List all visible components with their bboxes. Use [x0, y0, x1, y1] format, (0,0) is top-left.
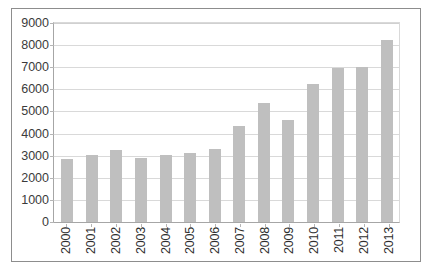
y-tick-mark-5000 [50, 111, 54, 112]
bar-slot [153, 23, 178, 222]
x-tick-label-2003: 2003 [134, 227, 147, 254]
bar-2003[interactable] [135, 158, 147, 222]
bar-2007[interactable] [233, 126, 245, 222]
y-tick-label-5000: 5000 [21, 105, 49, 118]
bar-slot [55, 23, 80, 222]
bar-2011[interactable] [332, 68, 344, 222]
y-tick-label-1000: 1000 [21, 194, 49, 207]
bar-slot [350, 23, 375, 222]
x-tick-label-2010: 2010 [308, 227, 321, 254]
x-slot: 2003 [128, 224, 153, 262]
y-tick-mark-4000 [50, 134, 54, 135]
y-tick-label-3000: 3000 [21, 149, 49, 162]
bar-slot [80, 23, 105, 222]
x-slot: 2005 [178, 224, 203, 262]
x-tick-label-2007: 2007 [234, 227, 247, 254]
x-slot: 2006 [203, 224, 228, 262]
y-tick-mark-3000 [50, 156, 54, 157]
x-tick-label-2004: 2004 [159, 227, 172, 254]
bar-slot [301, 23, 326, 222]
y-tick-label-2000: 2000 [21, 172, 49, 185]
y-tick-mark-9000 [50, 23, 54, 24]
bar-2005[interactable] [184, 153, 196, 222]
x-slot: 2007 [227, 224, 252, 262]
bar-slot [178, 23, 203, 222]
bar-2008[interactable] [258, 103, 270, 222]
chart-plot-wrapper: 0100020003000400050006000700080009000 20… [12, 9, 420, 261]
bar-slot [227, 23, 252, 222]
bar-2012[interactable] [356, 67, 368, 222]
y-tick-label-7000: 7000 [21, 61, 49, 74]
x-slot: 2013 [376, 224, 401, 262]
chart-frame: 0100020003000400050006000700080009000 20… [11, 8, 421, 262]
x-slot: 2002 [104, 224, 129, 262]
x-tick-label-2009: 2009 [283, 227, 296, 254]
y-tick-mark-1000 [50, 200, 54, 201]
x-slot: 2001 [79, 224, 104, 262]
x-tick-label-2006: 2006 [209, 227, 222, 254]
bar-slot [375, 23, 400, 222]
y-tick-mark-7000 [50, 67, 54, 68]
plot-area: 0100020003000400050006000700080009000 [53, 22, 400, 223]
bar-2009[interactable] [282, 120, 294, 222]
bar-series [55, 23, 399, 222]
x-tick-label-2002: 2002 [110, 227, 123, 254]
x-tick-label-2001: 2001 [85, 227, 98, 254]
x-slot: 2012 [351, 224, 376, 262]
x-tick-label-2011: 2011 [333, 227, 346, 253]
x-slot: 2010 [302, 224, 327, 262]
y-tick-label-8000: 8000 [21, 39, 49, 52]
bar-slot [325, 23, 350, 222]
bar-slot [276, 23, 301, 222]
bar-2001[interactable] [86, 155, 98, 222]
x-slot: 2000 [54, 224, 79, 262]
bar-slot [252, 23, 277, 222]
y-tick-mark-0 [50, 222, 54, 223]
x-tick-label-2008: 2008 [258, 227, 271, 254]
x-axis: 2000200120022003200420052006200720082009… [54, 224, 401, 262]
bar-2002[interactable] [110, 150, 122, 222]
bar-slot [129, 23, 154, 222]
x-slot: 2004 [153, 224, 178, 262]
y-tick-label-9000: 9000 [21, 17, 49, 30]
x-tick-label-2000: 2000 [60, 227, 73, 254]
x-tick-label-2005: 2005 [184, 227, 197, 254]
x-tick-label-2013: 2013 [382, 227, 395, 254]
y-tick-mark-2000 [50, 178, 54, 179]
bar-2013[interactable] [381, 40, 393, 222]
y-tick-label-4000: 4000 [21, 127, 49, 140]
bar-2010[interactable] [307, 84, 319, 222]
y-tick-mark-6000 [50, 89, 54, 90]
y-tick-label-0: 0 [42, 216, 49, 229]
y-tick-mark-8000 [50, 45, 54, 46]
x-slot: 2011 [327, 224, 352, 262]
bar-slot [104, 23, 129, 222]
bar-slot [202, 23, 227, 222]
y-tick-label-6000: 6000 [21, 83, 49, 96]
x-tick-label-2012: 2012 [358, 227, 371, 254]
bar-2000[interactable] [61, 159, 73, 222]
x-slot: 2009 [277, 224, 302, 262]
bar-2006[interactable] [209, 149, 221, 222]
bar-2004[interactable] [160, 155, 172, 222]
x-slot: 2008 [252, 224, 277, 262]
